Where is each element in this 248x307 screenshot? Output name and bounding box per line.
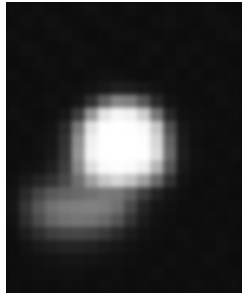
page-margin-right [242,0,248,307]
pixel-heatmap-canvas [6,2,242,293]
page-margin-top [0,0,248,2]
detector-frame [6,2,242,293]
image-viewport: Pixelated grayscale point source A heavi… [0,0,248,307]
page-margin-left [0,0,6,307]
page-margin-bottom [0,293,248,307]
